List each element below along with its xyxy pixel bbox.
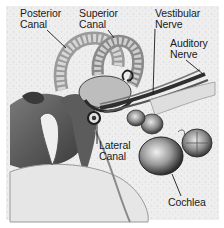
label-vestibular-nerve: Vestibular Nerve xyxy=(155,8,200,30)
anatomy-drawing xyxy=(0,0,224,228)
inner-ear-illustration: Posterior Canal Superior Canal Vestibula… xyxy=(0,0,224,228)
label-auditory-nerve: Auditory Nerve xyxy=(170,38,208,60)
label-cochlea: Cochlea xyxy=(168,197,206,208)
label-posterior-canal: Posterior Canal xyxy=(20,8,61,30)
label-lateral-canal: Lateral Canal xyxy=(99,140,130,162)
label-superior-canal: Superior Canal xyxy=(79,8,118,30)
cochlea-shape xyxy=(139,137,183,175)
